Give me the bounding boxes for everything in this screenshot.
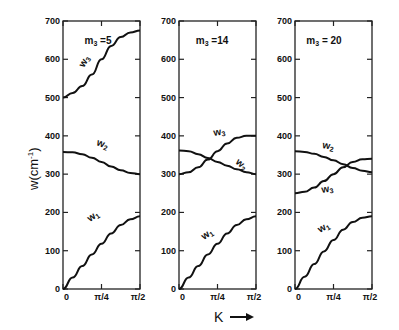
curve-w3 (295, 159, 372, 193)
y-tick-label: 700 (45, 16, 60, 26)
y-tick-label: 400 (277, 131, 292, 141)
curve-label-w3: w3 (76, 53, 93, 70)
panel-title: m3 = 20 (306, 35, 342, 47)
y-tick-label: 700 (161, 16, 176, 26)
x-tick-label: π/4 (326, 292, 340, 302)
curve-label-w1: w1 (315, 219, 332, 236)
y-tick-label: 100 (277, 246, 292, 256)
x-tick-label: 0 (180, 292, 185, 302)
x-tick-label: π/2 (247, 292, 261, 302)
curve-label-w2: w2 (232, 155, 250, 172)
x-tick-label: π/2 (131, 292, 145, 302)
y-tick-label: 700 (277, 16, 292, 26)
y-tick-label: 500 (45, 93, 60, 103)
x-axis-label: K (214, 309, 224, 325)
y-tick-label: 300 (161, 169, 176, 179)
x-tick-label: π/4 (210, 292, 224, 302)
curve-w2 (295, 151, 372, 172)
plot-frame (179, 21, 256, 289)
curve-label-w2: w2 (94, 136, 110, 152)
y-tick-label: 600 (45, 54, 60, 64)
y-tick-label: 0 (287, 284, 292, 294)
y-tick-label: 600 (161, 54, 176, 64)
curve-label-w1: w1 (84, 208, 101, 225)
y-tick-label: 200 (277, 207, 292, 217)
y-tick-label: 400 (45, 131, 60, 141)
y-tick-label: 400 (161, 131, 176, 141)
panel-title: m3 =14 (196, 35, 229, 47)
x-tick-label: 0 (64, 292, 69, 302)
y-tick-label: 0 (55, 284, 60, 294)
y-tick-label: 300 (277, 169, 292, 179)
y-tick-label: 500 (277, 93, 292, 103)
panel-title: m3 =5 (85, 35, 112, 47)
y-tick-label: 300 (45, 169, 60, 179)
curve-label-w3: w3 (319, 182, 334, 196)
arrow-head-icon (246, 313, 254, 321)
curve-label-w2: w2 (320, 139, 335, 153)
plot-frame (63, 21, 140, 289)
curve-label-w1: w1 (198, 226, 215, 243)
y-tick-label: 500 (161, 93, 176, 103)
dispersion-chart: 01002003004005006007000π/4π/2w1w2w3m3 =5… (0, 0, 399, 330)
curve-w1 (295, 216, 372, 289)
curve-w1 (179, 216, 256, 289)
y-tick-label: 200 (161, 207, 176, 217)
x-tick-label: π/2 (363, 292, 377, 302)
y-tick-label: 0 (171, 284, 176, 294)
y-tick-label: 100 (161, 246, 176, 256)
curve-label-w3: w3 (211, 125, 226, 139)
x-tick-label: 0 (296, 292, 301, 302)
y-axis-label: w(cm-1) (26, 147, 41, 191)
y-tick-label: 100 (45, 246, 60, 256)
curve-w2 (63, 152, 140, 174)
x-tick-label: π/4 (94, 292, 108, 302)
curve-w1 (63, 216, 140, 289)
y-tick-label: 600 (277, 54, 292, 64)
y-tick-label: 200 (45, 207, 60, 217)
plot-frame (295, 21, 372, 289)
